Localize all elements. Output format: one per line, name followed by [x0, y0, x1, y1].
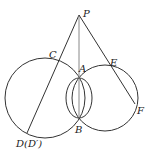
- label-d: D(D′): [15, 138, 42, 149]
- label-b: B: [74, 124, 82, 135]
- segment-pd: [27, 15, 79, 133]
- geometry-diagram: P C A E F B D(D′): [0, 0, 156, 159]
- right-circle: [72, 65, 138, 131]
- label-f: F: [136, 105, 145, 116]
- label-p: P: [82, 8, 90, 19]
- diagram-svg: P C A E F B D(D′): [0, 0, 156, 159]
- label-e: E: [109, 57, 118, 68]
- label-c: C: [49, 49, 57, 60]
- label-a: A: [78, 63, 86, 74]
- left-circle: [5, 58, 85, 138]
- segment-pf: [79, 15, 135, 104]
